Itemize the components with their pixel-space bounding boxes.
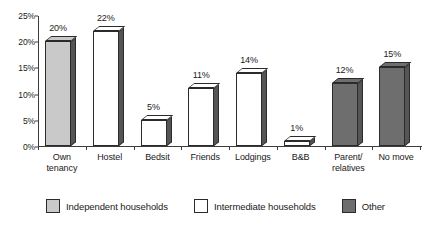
x-axis-category-label-line: Lodgings bbox=[229, 152, 277, 163]
x-axis-category-label: Owntenancy bbox=[38, 152, 86, 173]
x-axis-tick-mark bbox=[134, 147, 135, 150]
x-axis-tick-mark bbox=[372, 147, 373, 150]
bar: 1% bbox=[284, 136, 310, 146]
bar-front-face bbox=[284, 141, 310, 146]
bar: 22% bbox=[93, 26, 119, 146]
y-axis-tick-label: 0% bbox=[23, 142, 35, 152]
bar-value-label: 22% bbox=[97, 13, 115, 23]
legend-item-label: Other bbox=[362, 201, 385, 212]
y-axis-tick-mark bbox=[35, 120, 38, 121]
y-axis-tick-mark bbox=[35, 16, 38, 17]
bar-front-face bbox=[141, 120, 167, 146]
bar: 5% bbox=[141, 115, 167, 146]
bar: 12% bbox=[332, 78, 358, 146]
bar-front-face bbox=[236, 73, 262, 146]
x-axis-category-label-line: tenancy bbox=[38, 163, 86, 174]
bar-value-label: 12% bbox=[336, 65, 354, 75]
bar-front-face bbox=[188, 88, 214, 146]
y-axis-tick-mark bbox=[35, 42, 38, 43]
bar-top-face bbox=[93, 26, 125, 31]
bar-value-label: 11% bbox=[193, 70, 210, 80]
legend-item: Intermediate households bbox=[194, 199, 316, 213]
y-axis-tick-label: 20% bbox=[18, 37, 35, 47]
x-axis-category-label: Lodgings bbox=[229, 152, 277, 163]
y-axis-tick-label: 15% bbox=[18, 63, 35, 73]
bar-front-face bbox=[379, 67, 405, 146]
bar-side-face bbox=[71, 37, 76, 146]
x-axis-category-label-line: No move bbox=[372, 152, 420, 163]
legend-item: Other bbox=[342, 199, 385, 213]
legend-color-swatch bbox=[342, 199, 356, 213]
x-axis-category-label-line: B&B bbox=[277, 152, 325, 163]
bar-value-label: 5% bbox=[147, 102, 160, 112]
x-axis-tick-mark bbox=[325, 147, 326, 150]
y-axis-tick-mark bbox=[35, 68, 38, 69]
x-axis-category-label-line: Parent/ bbox=[325, 152, 373, 163]
legend-item-label: Independent households bbox=[66, 201, 168, 212]
bar-value-label: 1% bbox=[290, 123, 303, 133]
bar-side-face bbox=[358, 79, 363, 146]
bar-value-label: 14% bbox=[240, 55, 258, 65]
legend-item-label: Intermediate households bbox=[214, 201, 316, 212]
bar-top-face bbox=[141, 115, 173, 120]
bar-side-face bbox=[214, 84, 219, 146]
bar-side-face bbox=[167, 116, 172, 146]
legend-color-swatch bbox=[46, 199, 60, 213]
x-axis-category-label: Parent/relatives bbox=[325, 152, 373, 173]
x-axis-category-label-line: Bedsit bbox=[134, 152, 182, 163]
x-axis-category-label: Hostel bbox=[86, 152, 134, 163]
chart-legend: Independent householdsIntermediate house… bbox=[0, 199, 431, 213]
x-axis-category-label-line: Own bbox=[38, 152, 86, 163]
y-axis-tick-label: 5% bbox=[23, 116, 35, 126]
bar: 15% bbox=[379, 62, 405, 146]
x-axis-category-label: B&B bbox=[277, 152, 325, 163]
bar-side-face bbox=[119, 27, 124, 146]
x-axis-tick-mark bbox=[38, 147, 39, 150]
bar: 20% bbox=[45, 36, 71, 146]
bar: 14% bbox=[236, 68, 262, 146]
x-axis-tick-mark bbox=[181, 147, 182, 150]
bar-value-label: 20% bbox=[49, 23, 67, 33]
x-axis-tick-mark bbox=[86, 147, 87, 150]
plot-area: 0%5%10%15%20%25% 20%22%5%11%14%1%12%15% bbox=[38, 16, 420, 147]
bar-front-face bbox=[45, 41, 71, 146]
x-axis-category-label: Friends bbox=[181, 152, 229, 163]
x-axis-category-label: No move bbox=[372, 152, 420, 163]
legend-item: Independent households bbox=[46, 199, 168, 213]
bar-side-face bbox=[262, 69, 267, 146]
bar: 11% bbox=[188, 83, 214, 146]
bar-front-face bbox=[93, 31, 119, 146]
bar-value-label: 15% bbox=[383, 49, 401, 59]
y-axis-tick-label: 25% bbox=[18, 11, 35, 21]
x-axis-category-label: Bedsit bbox=[134, 152, 182, 163]
x-axis-line bbox=[38, 146, 422, 147]
x-axis-category-label-line: relatives bbox=[325, 163, 373, 174]
bar-side-face bbox=[405, 63, 410, 146]
bar-chart: 0%5%10%15%20%25% 20%22%5%11%14%1%12%15% … bbox=[0, 0, 431, 235]
x-axis-tick-mark bbox=[420, 147, 421, 150]
x-axis-category-label-line: Friends bbox=[181, 152, 229, 163]
x-axis-tick-mark bbox=[277, 147, 278, 150]
x-axis-tick-mark bbox=[229, 147, 230, 150]
y-axis-tick-label: 10% bbox=[18, 90, 35, 100]
y-axis-tick-mark bbox=[35, 94, 38, 95]
bar-front-face bbox=[332, 83, 358, 146]
y-axis-line bbox=[38, 16, 39, 147]
x-axis-category-label-line: Hostel bbox=[86, 152, 134, 163]
legend-color-swatch bbox=[194, 199, 208, 213]
